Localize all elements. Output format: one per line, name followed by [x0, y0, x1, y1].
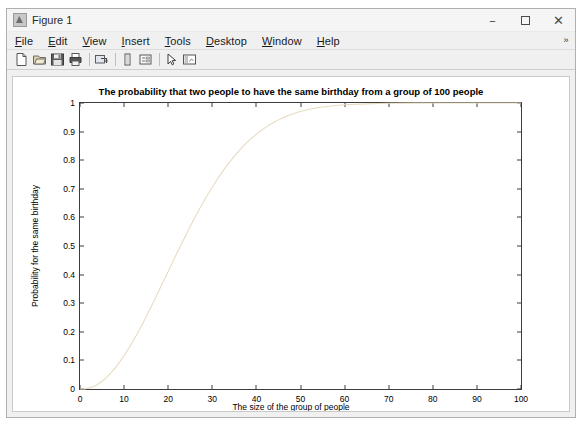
x-tick-label: 100 [514, 394, 528, 404]
menu-item-file[interactable]: File [15, 35, 33, 47]
x-axis-label: The size of the group of people [13, 402, 569, 412]
x-tick-label: 30 [208, 394, 217, 404]
x-tick-label: 80 [428, 394, 437, 404]
axes-box: 00.10.20.30.40.50.60.70.80.9101020304050… [79, 102, 522, 390]
menu-item-view[interactable]: View [83, 35, 107, 47]
window-title: Figure 1 [32, 14, 72, 26]
maximize-icon [521, 16, 530, 25]
figure-canvas[interactable]: The probability that two people to have … [12, 76, 570, 412]
new-figure-icon[interactable] [14, 52, 29, 67]
x-tick-label: 70 [384, 394, 393, 404]
menu-overflow-icon[interactable]: » [562, 36, 570, 45]
menu-item-edit[interactable]: Edit [48, 35, 67, 47]
minimize-button[interactable]: – [476, 9, 509, 31]
menu-item-desktop[interactable]: Desktop [206, 35, 247, 47]
y-tick-label: 0.4 [63, 270, 75, 280]
birthday-probability-curve [80, 103, 521, 389]
x-tick-label: 20 [163, 394, 172, 404]
link-plot-icon[interactable] [94, 52, 109, 67]
matlab-figure-icon [13, 13, 27, 27]
y-axis-label: Probability for the same birthday [30, 185, 40, 307]
show-plot-tools-icon[interactable] [182, 52, 197, 67]
insert-colorbar-icon[interactable] [120, 52, 135, 67]
open-file-icon[interactable] [32, 52, 47, 67]
minimize-icon: – [489, 14, 496, 27]
close-icon: ✕ [553, 14, 564, 27]
menu-item-tools[interactable]: Tools [165, 35, 191, 47]
toolbar-separator-3 [159, 53, 160, 66]
menu-item-help[interactable]: Help [317, 35, 340, 47]
window-controls: – ✕ [476, 9, 575, 31]
y-tick-label: 0.1 [63, 355, 75, 365]
maximize-button[interactable] [509, 9, 542, 31]
figure-window: Figure 1 – ✕ File Edit View Insert Tools… [6, 8, 576, 418]
menu-bar: File Edit View Insert Tools Desktop Wind… [7, 32, 575, 50]
y-tick-label: 0.8 [63, 155, 75, 165]
plot-title: The probability that two people to have … [13, 86, 569, 97]
y-tick-label: 0 [70, 384, 75, 394]
y-tick-label: 0.3 [63, 298, 75, 308]
y-tick-label: 0.6 [63, 212, 75, 222]
print-figure-icon[interactable] [68, 52, 83, 67]
title-bar: Figure 1 – ✕ [7, 9, 575, 32]
x-tick-label: 60 [340, 394, 349, 404]
x-tick-label: 50 [296, 394, 305, 404]
toolbar-separator-2 [115, 53, 116, 66]
y-tick-label: 0.5 [63, 241, 75, 251]
plot-curve-layer [80, 103, 521, 389]
x-tick-label: 40 [252, 394, 261, 404]
y-tick-label: 1 [70, 98, 75, 108]
x-tick-label: 10 [119, 394, 128, 404]
save-figure-icon[interactable] [50, 52, 65, 67]
y-tick-label: 0.9 [63, 127, 75, 137]
insert-legend-icon[interactable] [138, 52, 153, 67]
x-tick-label: 90 [472, 394, 481, 404]
y-tick-label: 0.7 [63, 184, 75, 194]
x-tick-label: 0 [78, 394, 83, 404]
y-tick-label: 0.2 [63, 327, 75, 337]
menu-item-window[interactable]: Window [262, 35, 302, 47]
menu-item-insert[interactable]: Insert [122, 35, 150, 47]
edit-plot-icon[interactable] [164, 52, 179, 67]
tool-bar [7, 50, 575, 70]
close-button[interactable]: ✕ [542, 9, 575, 31]
toolbar-separator-1 [89, 53, 90, 66]
